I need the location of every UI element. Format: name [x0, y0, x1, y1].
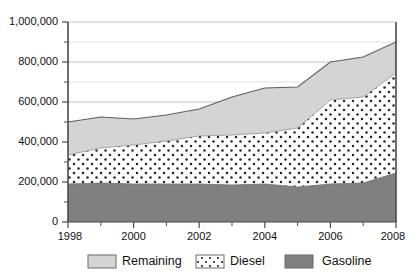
legend-swatch-diesel — [196, 255, 224, 268]
y-tick-label-400000: 400,000 — [18, 135, 58, 147]
y-tick-label-200000: 200,000 — [18, 175, 58, 187]
y-tick-label-0: 0 — [52, 215, 58, 227]
x-tick-label-2006: 2006 — [318, 230, 342, 242]
legend-label-remaining: Remaining — [122, 254, 182, 268]
x-tick-label-2004: 2004 — [253, 230, 277, 242]
legend-label-gasoline: Gasoline — [322, 254, 371, 268]
chart-legend: Remaining Diesel Gasoline — [88, 254, 371, 268]
x-tick-label-1998: 1998 — [58, 230, 82, 242]
legend-label-diesel: Diesel — [230, 254, 265, 268]
legend-swatch-remaining — [88, 255, 116, 268]
x-tick-label-2002: 2002 — [187, 230, 211, 242]
x-tick-label-2008: 2008 — [381, 230, 405, 242]
stacked-area-chart: 1,000,000 800,000 600,000 400,000 200,00… — [0, 0, 418, 280]
y-tick-label-600000: 600,000 — [18, 95, 58, 107]
y-tick-label-800000: 800,000 — [18, 55, 58, 67]
chart-container: 1,000,000 800,000 600,000 400,000 200,00… — [0, 0, 418, 280]
x-tick-label-2000: 2000 — [121, 230, 145, 242]
legend-swatch-gasoline — [285, 255, 313, 268]
y-tick-label-1000000: 1,000,000 — [9, 15, 58, 27]
